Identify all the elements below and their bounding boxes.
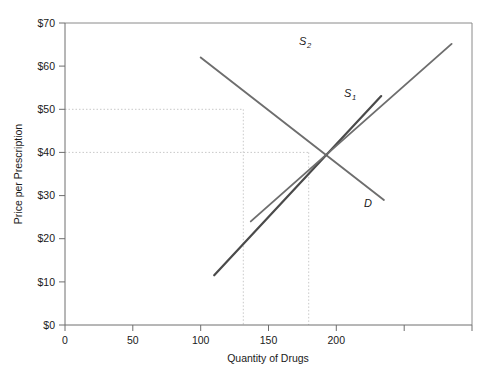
x-tick-label-100: 100: [192, 334, 210, 346]
y-tick-label-30: $30: [37, 189, 55, 201]
x-axis-title: Quantity of Drugs: [227, 352, 309, 364]
x-tick-label-50: 50: [127, 334, 139, 346]
supply-demand-chart: $0 $10 $20 $30 $40 $50 $60 $70 Price per…: [0, 0, 493, 373]
x-tick-label-0: 0: [62, 334, 68, 346]
y-tick-label-0: $0: [43, 319, 55, 331]
y-tick-label-50: $50: [37, 103, 55, 115]
y-tick-label-10: $10: [37, 276, 55, 288]
y-tick-label-40: $40: [37, 146, 55, 158]
demand-curve-label: D: [364, 197, 372, 209]
x-tick-label-200: 200: [328, 334, 346, 346]
supply-curve-s2-label-text: S: [299, 35, 307, 47]
supply-curve-s2-label-subscript: 2: [306, 41, 312, 50]
supply-curve-s1-label-text: S: [344, 87, 352, 99]
chart-canvas: $0 $10 $20 $30 $40 $50 $60 $70 Price per…: [0, 0, 493, 373]
y-tick-label-20: $20: [37, 232, 55, 244]
demand-curve-label-text: D: [364, 197, 372, 209]
supply-curve-s1-label-subscript: 1: [352, 93, 356, 102]
x-tick-label-150: 150: [260, 334, 278, 346]
chart-background: [0, 0, 493, 373]
y-tick-label-70: $70: [37, 17, 55, 29]
y-axis-title: Price per Prescription: [12, 124, 24, 225]
y-tick-label-60: $60: [37, 60, 55, 72]
